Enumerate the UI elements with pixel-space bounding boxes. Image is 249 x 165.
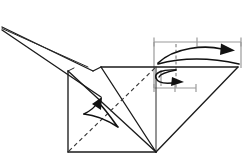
origami-diagram-canvas xyxy=(0,0,249,165)
canvas-background xyxy=(0,0,249,165)
origami-figure xyxy=(0,0,249,165)
